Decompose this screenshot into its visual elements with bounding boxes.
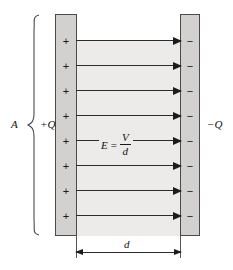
field-arrow [76, 40, 181, 41]
field-arrow [76, 115, 181, 116]
field-arrow [76, 215, 181, 216]
equation-fraction: V d [120, 132, 131, 157]
positive-charge-symbol: + [56, 41, 76, 42]
positive-charge-symbol: + [56, 216, 76, 217]
negative-charge-symbol: − [181, 216, 199, 217]
equation-numerator: V [120, 132, 131, 144]
negative-charge-symbol: − [181, 91, 199, 92]
positive-plate: ++++++++ [55, 14, 77, 236]
negative-charge-symbol: − [181, 116, 199, 117]
positive-charge-symbol: + [56, 116, 76, 117]
positive-charge-symbol: + [56, 91, 76, 92]
positive-charge-column: ++++++++ [56, 15, 76, 235]
plate-area-label: A [11, 118, 18, 130]
positive-charge-symbol: + [56, 191, 76, 192]
field-arrow [76, 190, 181, 191]
negative-charge-symbol: − [181, 191, 199, 192]
equation-symbol: E [101, 139, 108, 151]
separation-dimension-line [76, 252, 181, 253]
equation-denominator: d [121, 145, 131, 157]
negative-charge-symbol: − [181, 66, 199, 67]
field-equation: E = V d [99, 131, 133, 158]
separation-dimension-label: d [124, 238, 130, 250]
positive-charge-symbol: + [56, 141, 76, 142]
field-arrow [76, 90, 181, 91]
negative-plate: −−−−−−−− [180, 14, 200, 236]
positive-charge-label: +Q [40, 118, 55, 130]
capacitor-figure: ++++++++ −−−−−−−− A +Q −Q E = V d d [0, 0, 233, 270]
negative-charge-symbol: − [181, 141, 199, 142]
equation-operator: = [111, 139, 117, 151]
negative-charge-symbol: − [181, 41, 199, 42]
field-arrow [76, 65, 181, 66]
positive-charge-symbol: + [56, 166, 76, 167]
positive-charge-symbol: + [56, 66, 76, 67]
negative-charge-label: −Q [207, 118, 222, 130]
negative-charge-symbol: − [181, 166, 199, 167]
negative-charge-column: −−−−−−−− [181, 15, 199, 235]
field-arrow [76, 165, 181, 166]
